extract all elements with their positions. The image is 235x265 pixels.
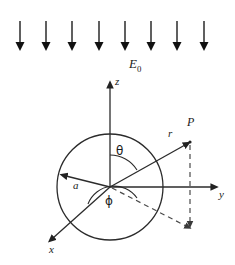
field-arrow-group	[20, 21, 204, 43]
x-axis	[53, 187, 110, 238]
theta-angle-label: θ	[116, 145, 123, 157]
phi-angle-label: ϕ	[105, 195, 113, 207]
point-p-label: P	[187, 116, 194, 128]
figure-canvas	[0, 0, 235, 265]
z-axis-label: z	[115, 76, 119, 87]
x-axis-label: x	[49, 244, 54, 255]
theta-arc	[110, 155, 137, 170]
projection-line-dashed	[112, 188, 186, 226]
point-p-marker	[188, 140, 191, 143]
physics-figure: E0 z y x a r P θ ϕ	[0, 0, 235, 265]
field-label-E0: E0	[129, 57, 141, 73]
y-axis-label: y	[219, 189, 224, 200]
radial-vector-label: r	[168, 128, 172, 139]
sphere-radius-label: a	[73, 180, 79, 191]
